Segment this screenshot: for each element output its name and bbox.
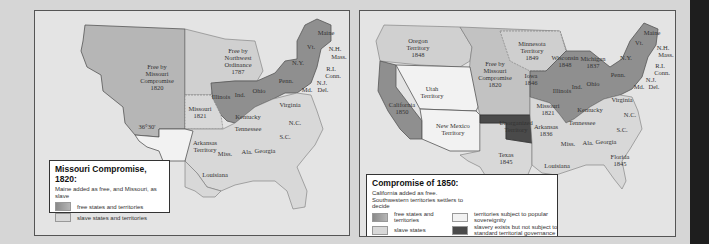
label-tennessee: Tennessee (235, 125, 262, 132)
label-maine: Maine (644, 29, 661, 36)
label-penn: Penn. (279, 77, 294, 84)
legend-swatch-slave (372, 226, 388, 235)
label-mass: Mass. (331, 53, 347, 60)
label-nc: N.C. (289, 119, 302, 126)
label-sc: S.C. (279, 133, 291, 140)
label-penn: Penn. (611, 71, 626, 78)
legend-label-slave: slave states and territories (77, 215, 147, 221)
label-georgia: Georgia (596, 138, 617, 145)
label-md: Md. (634, 83, 645, 90)
label-md: Md. (302, 86, 313, 93)
label-del: Del. (317, 86, 328, 93)
label-louisiana: Louisiana (544, 162, 570, 169)
legend-swatch-popular-sovereignty (452, 213, 468, 222)
label-texas: Texas1845 (498, 151, 514, 165)
legend-item-free: free states and territories (372, 213, 452, 222)
label-louisiana: Louisiana (202, 171, 228, 178)
label-arkansas: ArkansasTerritory (193, 139, 218, 153)
legend-item-unorganized: slavery exists but not subject to standa… (452, 226, 562, 235)
legend-swatch-free (55, 202, 71, 211)
label-ny: N.Y. (292, 59, 304, 66)
label-ny: N.Y. (620, 54, 632, 61)
label-ri: R.I. (326, 65, 336, 72)
legend-missouri-compromise: Missouri Compromise, 1820: Maine added a… (49, 160, 170, 213)
label-virginia: Virginia (611, 96, 632, 103)
label-ohio: Ohio (253, 87, 266, 94)
legend-subtitle: Maine added as free, and Missouri, as sl… (55, 186, 164, 199)
legend-swatch-slave (55, 213, 71, 222)
label-ri: R.I. (655, 62, 665, 69)
label-mississippi: Miss. (218, 150, 233, 157)
label-vt: Vt. (635, 39, 644, 46)
label-georgia: Georgia (255, 147, 276, 154)
label-nh: N.H. (657, 44, 670, 51)
legend-label-free: free states and territories (77, 204, 143, 210)
legend-swatch-free (372, 213, 388, 222)
label-maine: Maine (318, 29, 335, 36)
label-kentucky: Kentucky (235, 113, 261, 120)
label-latitude: 36°30' (139, 123, 156, 130)
label-kentucky: Kentucky (577, 106, 603, 113)
legend-label-popular-sovereignty: territories subject to popular sovereign… (474, 211, 562, 223)
label-indiana: Ind. (235, 91, 246, 98)
legend-label-slave: slave states (394, 227, 426, 233)
label-iowa: Iowa1846 (525, 72, 539, 86)
label-mississippi: Miss. (561, 140, 576, 147)
label-sc: S.C. (616, 126, 628, 133)
legend-item-slave: slave states and territories (55, 213, 164, 222)
label-mass: Mass. (658, 51, 674, 58)
label-virginia: Virginia (279, 101, 300, 108)
label-alabama: Ala. (241, 148, 252, 155)
legend-item-slave: slave states (372, 226, 452, 235)
compromise-1850-map: OregonTerritory1848 MinnesotaTerritory18… (359, 10, 676, 237)
missouri-compromise-map: Free byMissouriCompromise1820 Free byNor… (34, 10, 350, 236)
label-alabama: Ala. (582, 139, 593, 146)
legend-item-popular-sovereignty: territories subject to popular sovereign… (452, 213, 562, 222)
legend-title: Missouri Compromise, 1820: (55, 164, 164, 184)
legend-subtitle: California added as free. Southwestern t… (372, 190, 467, 210)
legend-label-unorganized: slavery exists but not subject to standa… (474, 224, 562, 236)
label-vt: Vt. (307, 43, 316, 50)
legend-title: Compromise of 1850: (372, 178, 552, 188)
black-edge-strip (690, 0, 709, 244)
label-nj: N.J. (317, 79, 328, 86)
label-tennessee: Tennessee (569, 119, 596, 126)
label-nc: N.C. (624, 111, 637, 118)
label-conn: Conn. (654, 69, 670, 76)
label-ohio: Ohio (587, 80, 600, 87)
legend-item-free: free states and territories (55, 202, 164, 211)
legend-swatch-unorganized (452, 226, 468, 235)
legend-compromise-1850: Compromise of 1850: California added as … (366, 174, 558, 237)
label-indiana: Ind. (572, 83, 583, 90)
label-nh: N.H. (329, 45, 342, 52)
label-florida: Florida1845 (611, 153, 630, 167)
label-del: Del. (648, 83, 659, 90)
label-illinois: Illinois (212, 93, 231, 100)
label-conn: Conn. (325, 72, 341, 79)
label-nj: N.J. (646, 76, 657, 83)
legend-label-free: free states and territories (394, 211, 452, 223)
label-illinois: Illinois (553, 87, 572, 94)
